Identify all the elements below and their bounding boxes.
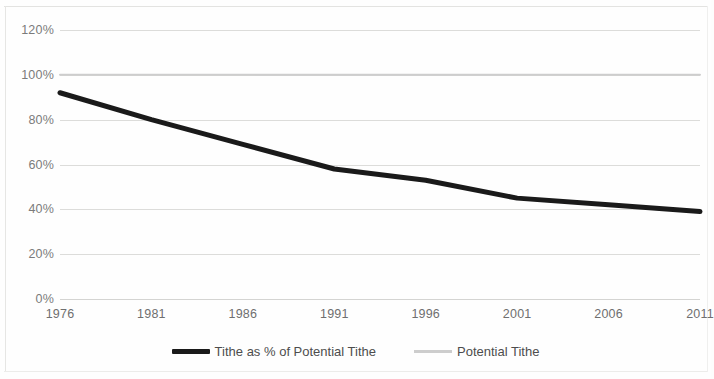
legend-line-swatch-icon [172, 349, 210, 354]
x-axis-tick-label: 2011 [686, 308, 714, 321]
x-axis-tick-label: 2006 [594, 308, 623, 321]
series-line [60, 93, 700, 212]
legend-label: Tithe as % of Potential Tithe [215, 345, 376, 358]
y-axis-tick-label: 40% [8, 203, 54, 216]
x-axis-tick-labels: 19761981198619911996200120062011 [60, 308, 700, 330]
plot-area [60, 30, 700, 299]
x-axis-tick-label: 1981 [137, 308, 166, 321]
y-axis-tick-label: 20% [8, 248, 54, 261]
legend-line-swatch-icon [414, 350, 452, 353]
x-axis-tick-label: 1976 [46, 308, 75, 321]
x-axis-tick-label: 1996 [411, 308, 440, 321]
series-lines [60, 30, 700, 299]
y-axis-tick-label: 80% [8, 114, 54, 127]
y-axis-tick-label: 60% [8, 159, 54, 172]
y-axis-tick-label: 0% [8, 293, 54, 306]
y-axis-tick-labels: 0%20%40%60%80%100%120% [4, 30, 54, 299]
chart-frame-bottom-border [4, 371, 708, 372]
legend-item-tithe-as-percent[interactable]: Tithe as % of Potential Tithe [172, 345, 376, 358]
gridline [60, 299, 700, 300]
legend-label: Potential Tithe [457, 345, 539, 358]
x-axis-tick-label: 1986 [229, 308, 258, 321]
x-axis-tick-label: 1991 [320, 308, 349, 321]
y-axis-tick-label: 120% [8, 24, 54, 37]
legend-item-potential-tithe[interactable]: Potential Tithe [414, 345, 539, 358]
chart-legend: Tithe as % of Potential Tithe Potential … [0, 345, 711, 358]
y-axis-tick-label: 100% [8, 69, 54, 82]
x-axis-tick-label: 2001 [503, 308, 532, 321]
chart-frame-top-border [4, 6, 708, 7]
